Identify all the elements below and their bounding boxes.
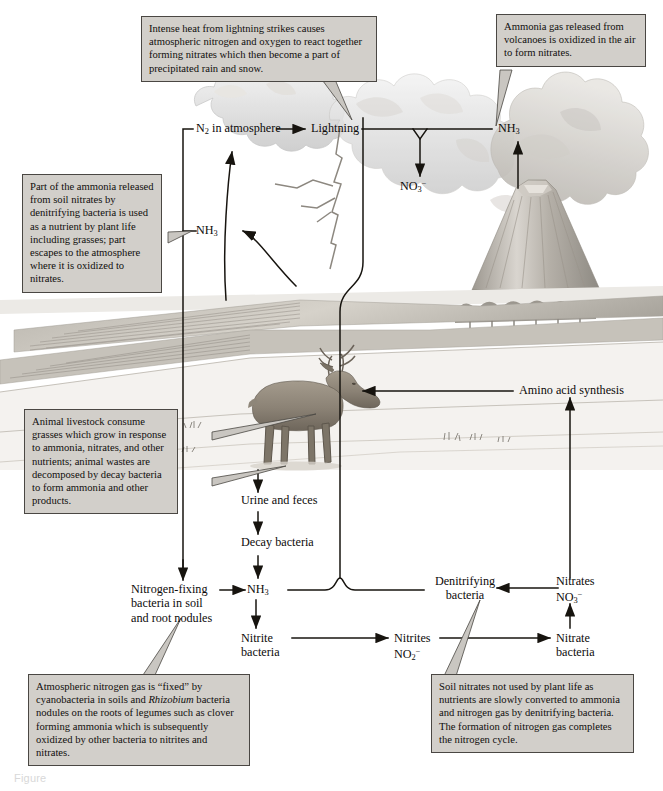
- no3-bottom-charge: −: [578, 590, 583, 599]
- node-nh3-soil: NH3: [247, 582, 269, 601]
- nh3-left-symbol: NH: [196, 223, 214, 237]
- decay-bacteria-label: Decay bacteria: [241, 535, 314, 549]
- no2-charge: −: [416, 647, 421, 656]
- node-nh3-top: NH3: [498, 121, 520, 140]
- no3-top-charge: −: [422, 179, 427, 188]
- nitrogen-fixing-line2: bacteria in soil: [131, 596, 212, 610]
- amino-acid-synthesis-label: Amino acid synthesis: [519, 383, 624, 397]
- node-decay-bacteria: Decay bacteria: [241, 535, 314, 549]
- nitrite-bacteria-line1: Nitrite: [241, 631, 280, 645]
- grass-tufts-art: [156, 421, 510, 452]
- node-no3-top: NO3−: [400, 177, 427, 197]
- no3-bottom-symbol: NO: [556, 590, 574, 604]
- denitrifying-line2: bacteria: [430, 588, 500, 602]
- nitrite-bacteria-line2: bacteria: [241, 645, 280, 659]
- figure-caption: Figure: [14, 772, 46, 784]
- no3-top-symbol: NO: [400, 179, 418, 193]
- tree-row-art: [455, 301, 596, 331]
- node-lightning: Lightning: [311, 121, 359, 135]
- nitrogen-fixing-line1: Nitrogen-fixing: [131, 582, 212, 596]
- n2-symbol: N: [196, 121, 205, 135]
- no2-symbol: NO: [394, 647, 412, 661]
- nh3-top-symbol: NH: [498, 121, 516, 135]
- fixation-callout-genus: Rhizobium: [148, 694, 193, 705]
- node-nitrite-bacteria: Nitrite bacteria: [241, 631, 280, 660]
- denitrifying-line1: Denitrifying: [430, 574, 500, 588]
- nh3-top-subscript: 3: [516, 127, 520, 136]
- nitrate-bacteria-line1: Nitrate: [556, 631, 595, 645]
- lightning-callout-text: Intense heat from lightning strikes caus…: [149, 23, 362, 74]
- node-nitrates-no3: Nitrates NO3−: [556, 574, 595, 609]
- node-nitrites-no2: Nitrites NO2−: [394, 631, 431, 666]
- fixation-callout: Atmospheric nitrogen gas is “fixed” by c…: [28, 674, 250, 766]
- node-denitrifying-bacteria: Denitrifying bacteria: [430, 574, 500, 603]
- nitrogen-cycle-figure: Intense heat from lightning strikes caus…: [0, 0, 663, 791]
- volcano-callout: Ammonia gas released from volcanoes is o…: [496, 14, 646, 67]
- denitrification-callout: Soil nitrates not used by plant life as …: [431, 674, 634, 753]
- nitrates-label: Nitrates: [556, 574, 595, 588]
- node-nitrate-bacteria: Nitrate bacteria: [556, 631, 595, 660]
- ammonia-callout-text: Part of the ammonia released from soil n…: [30, 181, 154, 284]
- volcano-plume-art: [490, 72, 648, 213]
- urine-and-feces-label: Urine and feces: [241, 493, 317, 507]
- volcano-callout-text: Ammonia gas released from volcanoes is o…: [504, 21, 636, 58]
- lightning-callout: Intense heat from lightning strikes caus…: [141, 16, 377, 82]
- deer-art: [248, 345, 380, 471]
- nitrogen-fixing-line3: and root nodules: [131, 611, 212, 625]
- lightning-label: Lightning: [311, 121, 359, 135]
- nh3-soil-symbol: NH: [247, 582, 265, 596]
- lightning-bolt-art: [275, 128, 342, 269]
- ammonia-callout: Part of the ammonia released from soil n…: [22, 174, 162, 293]
- livestock-callout: Animal livestock consume grasses which g…: [24, 409, 178, 514]
- livestock-callout-text: Animal livestock consume grasses which g…: [32, 416, 166, 506]
- node-nh3-left: NH3: [196, 223, 218, 242]
- nitrate-bacteria-line2: bacteria: [556, 645, 595, 659]
- node-n2-atmosphere: N2 in atmosphere: [196, 121, 281, 140]
- n2-atmosphere-text: in atmosphere: [209, 121, 281, 135]
- nh3-soil-subscript: 3: [265, 588, 269, 597]
- node-nitrogen-fixing-bacteria: Nitrogen-fixing bacteria in soil and roo…: [131, 582, 212, 625]
- node-urine-and-feces: Urine and feces: [241, 493, 317, 507]
- denitrification-callout-text: Soil nitrates not used by plant life as …: [439, 681, 620, 745]
- node-amino-acid-synthesis: Amino acid synthesis: [519, 383, 624, 397]
- volcano-art: [472, 180, 600, 290]
- nitrites-label: Nitrites: [394, 631, 431, 645]
- nh3-left-subscript: 3: [214, 229, 218, 238]
- diagram-connectors: [183, 118, 570, 638]
